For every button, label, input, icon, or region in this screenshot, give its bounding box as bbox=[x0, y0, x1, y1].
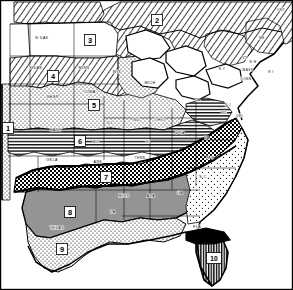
state-ga: GA bbox=[177, 191, 183, 195]
state-mass: MASS bbox=[243, 68, 254, 72]
state-vt: VT bbox=[243, 56, 248, 60]
zone-10-label: 10 bbox=[210, 255, 218, 262]
state-tenn: TENN bbox=[135, 156, 145, 160]
zone-3-label: 3 bbox=[88, 36, 92, 45]
state-ind: IND bbox=[132, 118, 140, 122]
zone-5-label: 5 bbox=[92, 101, 96, 110]
zone-7-label: 7 bbox=[104, 173, 108, 182]
state-iowa: IOWA bbox=[84, 90, 96, 94]
state-miss: MISS bbox=[119, 194, 130, 198]
state-la: LA bbox=[110, 210, 115, 214]
state-conn: CONN bbox=[240, 77, 251, 81]
zone-4[interactable]: 4 bbox=[48, 71, 59, 82]
zone-7[interactable]: 7 bbox=[101, 172, 112, 183]
state-wis: WIS bbox=[113, 70, 121, 74]
state-ill: ILL bbox=[107, 121, 114, 125]
state-nebr: NEBR bbox=[47, 95, 59, 99]
state-r-i: R I bbox=[268, 70, 273, 74]
zone-6[interactable]: 6 bbox=[75, 136, 86, 147]
state-pa: PA bbox=[195, 98, 201, 102]
zone-region-3 bbox=[28, 22, 118, 58]
state-md: MD bbox=[221, 111, 227, 115]
state-ark: ARK bbox=[94, 160, 103, 164]
state-n-j: N J bbox=[225, 103, 231, 107]
state-fla: FLA bbox=[193, 225, 201, 229]
zone-5[interactable]: 5 bbox=[89, 100, 100, 111]
state-s-c: S C bbox=[199, 175, 207, 179]
map-canvas: N DAKS DAKMINNWISNEBRIOWAMICHILLINDOHIOK… bbox=[0, 0, 293, 290]
zone-2-label: 2 bbox=[155, 16, 159, 25]
state-va: VA bbox=[204, 136, 210, 140]
state-okla: OKLA bbox=[46, 158, 58, 162]
state-w-va: W VA bbox=[175, 131, 185, 135]
zone-9-label: 9 bbox=[60, 245, 64, 254]
state-s-dak: S DAK bbox=[29, 66, 42, 70]
zone-map: N DAKS DAKMINNWISNEBRIOWAMICHILLINDOHIOK… bbox=[0, 0, 293, 290]
state-mo: MO bbox=[93, 140, 100, 144]
zone-3[interactable]: 3 bbox=[85, 35, 96, 46]
state-n-y: N Y bbox=[219, 67, 226, 71]
state-ohio: OHIO bbox=[154, 118, 165, 122]
zone-8-label: 8 bbox=[68, 208, 72, 217]
state-n-h: N H bbox=[250, 60, 257, 64]
state-del: DEL bbox=[236, 114, 244, 118]
zone-6-label: 6 bbox=[78, 137, 82, 146]
state-n-c: N C bbox=[206, 156, 214, 160]
state-n-dak: N DAK bbox=[35, 36, 49, 40]
zone-1[interactable]: 1 bbox=[3, 123, 14, 134]
zone-8[interactable]: 8 bbox=[65, 207, 76, 218]
state-mich: MICH bbox=[144, 81, 155, 85]
state-kans: KANS bbox=[50, 128, 62, 132]
zone-2[interactable]: 2 bbox=[152, 15, 163, 26]
state-texas: TEXAS bbox=[50, 226, 64, 230]
state-minn: MINN bbox=[78, 66, 89, 70]
zone-1-label: 1 bbox=[6, 124, 10, 133]
state-ont: ONT bbox=[277, 8, 285, 12]
state-ky: KY bbox=[145, 140, 150, 144]
zone-9[interactable]: 9 bbox=[57, 244, 68, 255]
zone-10[interactable]: 10 bbox=[207, 253, 222, 264]
state-me: ME bbox=[259, 36, 265, 40]
state-ala: ALA bbox=[147, 194, 155, 198]
